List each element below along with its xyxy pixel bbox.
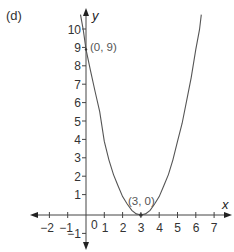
x-axis-label: x: [221, 197, 229, 212]
chart-svg: (d) −2 −1 1 2: [0, 0, 234, 252]
point-3-0: [139, 213, 143, 217]
point-3-0-label: (3, 0): [128, 195, 155, 207]
y-tick-label: 5: [74, 115, 81, 129]
y-axis-up-arrow-icon: [83, 8, 89, 16]
x-tick-label: 1: [102, 221, 109, 235]
x-tick-label: 4: [156, 221, 163, 235]
point-0-9: [85, 48, 87, 50]
x-tick-label: 2: [120, 221, 127, 235]
point-0-9-label: (0, 9): [90, 41, 117, 53]
y-axis-label: y: [91, 8, 100, 23]
x-axis-left-arrow-icon: [30, 212, 38, 218]
y-tick-label: 2: [74, 170, 81, 184]
y-axis-down-arrow-icon: [83, 242, 89, 250]
part-label: (d): [6, 8, 22, 23]
y-tick-label: 8: [74, 59, 81, 73]
y-tick-label: 1: [74, 188, 81, 202]
x-tick-label: −2: [40, 221, 54, 235]
x-tick-label: 3: [138, 221, 145, 235]
x-axis-right-arrow-icon: [224, 212, 232, 218]
y-ticks: [82, 29, 86, 233]
y-tick-label: 3: [74, 151, 81, 165]
y-tick-labels: 10 9 8 7 6 5 4 3 2 1 −1: [67, 23, 81, 242]
y-tick-label: 9: [74, 41, 81, 55]
x-tick-label: 7: [211, 221, 218, 235]
y-tick-label: 10: [68, 23, 82, 37]
y-tick-label: −1: [67, 227, 81, 241]
x-tick-label: 5: [174, 221, 181, 235]
origin-label: 0: [91, 218, 98, 232]
y-tick-label: 4: [74, 133, 81, 147]
chart-figure: (d) −2 −1 1 2: [0, 0, 234, 252]
x-tick-label: 6: [193, 221, 200, 235]
y-tick-label: 7: [74, 78, 81, 92]
y-tick-label: 6: [74, 96, 81, 110]
